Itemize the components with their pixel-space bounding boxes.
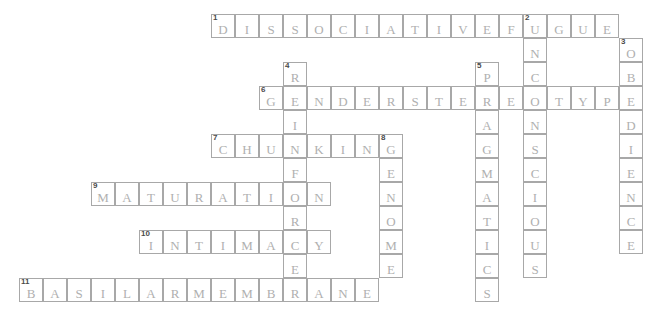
crossword-cell[interactable]: S (403, 86, 427, 110)
crossword-cell[interactable]: E (211, 278, 235, 302)
crossword-cell[interactable]: U (523, 230, 547, 254)
crossword-cell[interactable]: O (307, 14, 331, 38)
crossword-cell[interactable]: A (259, 230, 283, 254)
crossword-cell[interactable]: 4R (283, 62, 307, 86)
crossword-cell[interactable]: C (523, 158, 547, 182)
crossword-cell[interactable]: O (379, 206, 403, 230)
crossword-cell[interactable]: G (547, 14, 571, 38)
crossword-cell[interactable]: I (211, 230, 235, 254)
crossword-cell[interactable]: R (475, 86, 499, 110)
crossword-cell[interactable]: R (379, 86, 403, 110)
crossword-cell[interactable]: E (283, 86, 307, 110)
crossword-cell[interactable]: O (523, 206, 547, 230)
crossword-cell[interactable]: 1D (211, 14, 235, 38)
crossword-cell[interactable]: E (283, 254, 307, 278)
crossword-cell[interactable]: F (499, 14, 523, 38)
crossword-cell[interactable]: 8G (379, 134, 403, 158)
crossword-cell[interactable]: K (307, 134, 331, 158)
crossword-cell[interactable]: N (283, 134, 307, 158)
crossword-cell[interactable]: E (619, 86, 643, 110)
crossword-cell[interactable]: R (187, 182, 211, 206)
crossword-cell[interactable]: O (523, 86, 547, 110)
crossword-cell[interactable]: E (619, 230, 643, 254)
crossword-cell[interactable]: C (619, 206, 643, 230)
crossword-cell[interactable]: N (379, 182, 403, 206)
crossword-cell[interactable]: M (235, 278, 259, 302)
crossword-cell[interactable]: S (67, 278, 91, 302)
crossword-cell[interactable]: R (283, 206, 307, 230)
crossword-cell[interactable]: A (307, 278, 331, 302)
crossword-cell[interactable]: S (259, 14, 283, 38)
crossword-cell[interactable]: A (115, 182, 139, 206)
crossword-cell[interactable]: T (475, 206, 499, 230)
crossword-cell[interactable]: I (475, 230, 499, 254)
crossword-cell[interactable]: I (259, 182, 283, 206)
crossword-cell[interactable]: U (259, 134, 283, 158)
crossword-cell[interactable]: G (475, 134, 499, 158)
crossword-cell[interactable]: 3O (619, 38, 643, 62)
crossword-cell[interactable]: E (595, 14, 619, 38)
crossword-cell[interactable]: C (475, 254, 499, 278)
crossword-cell[interactable]: U (571, 14, 595, 38)
crossword-cell[interactable]: R (163, 278, 187, 302)
crossword-cell[interactable]: Y (571, 86, 595, 110)
crossword-cell[interactable]: A (211, 182, 235, 206)
crossword-cell[interactable]: B (259, 278, 283, 302)
crossword-cell[interactable]: F (283, 158, 307, 182)
crossword-cell[interactable]: M (187, 278, 211, 302)
crossword-cell[interactable]: A (475, 110, 499, 134)
crossword-cell[interactable]: H (235, 134, 259, 158)
crossword-cell[interactable]: C (523, 62, 547, 86)
crossword-cell[interactable]: E (379, 254, 403, 278)
crossword-cell[interactable]: A (139, 278, 163, 302)
crossword-cell[interactable]: E (619, 158, 643, 182)
crossword-cell[interactable]: I (523, 182, 547, 206)
crossword-cell[interactable]: A (475, 182, 499, 206)
crossword-cell[interactable]: N (331, 278, 355, 302)
crossword-cell[interactable]: D (619, 110, 643, 134)
crossword-cell[interactable]: 5P (475, 62, 499, 86)
crossword-cell[interactable]: I (331, 134, 355, 158)
crossword-cell[interactable]: E (355, 86, 379, 110)
crossword-cell[interactable]: N (307, 86, 331, 110)
crossword-cell[interactable]: M (235, 230, 259, 254)
crossword-cell[interactable]: P (595, 86, 619, 110)
crossword-cell[interactable]: M (475, 158, 499, 182)
crossword-cell[interactable]: R (283, 278, 307, 302)
crossword-cell[interactable]: V (451, 14, 475, 38)
crossword-cell[interactable]: Y (307, 230, 331, 254)
crossword-cell[interactable]: I (91, 278, 115, 302)
crossword-cell[interactable]: I (619, 134, 643, 158)
crossword-cell[interactable]: T (427, 86, 451, 110)
crossword-cell[interactable]: N (307, 182, 331, 206)
crossword-cell[interactable]: E (499, 86, 523, 110)
crossword-cell[interactable]: N (523, 38, 547, 62)
crossword-cell[interactable]: E (379, 158, 403, 182)
crossword-cell[interactable]: S (475, 278, 499, 302)
crossword-cell[interactable]: O (283, 182, 307, 206)
crossword-cell[interactable]: S (523, 254, 547, 278)
crossword-cell[interactable]: 6G (259, 86, 283, 110)
crossword-cell[interactable]: 9M (91, 182, 115, 206)
crossword-cell[interactable]: I (355, 14, 379, 38)
crossword-cell[interactable]: L (115, 278, 139, 302)
crossword-cell[interactable]: E (355, 278, 379, 302)
crossword-cell[interactable]: T (235, 182, 259, 206)
crossword-cell[interactable]: N (523, 110, 547, 134)
crossword-cell[interactable]: N (355, 134, 379, 158)
crossword-cell[interactable]: E (451, 86, 475, 110)
crossword-cell[interactable]: B (619, 62, 643, 86)
crossword-cell[interactable]: U (163, 182, 187, 206)
crossword-cell[interactable]: S (283, 14, 307, 38)
crossword-cell[interactable]: C (283, 230, 307, 254)
crossword-cell[interactable]: T (547, 86, 571, 110)
crossword-cell[interactable]: E (475, 14, 499, 38)
crossword-cell[interactable]: 7C (211, 134, 235, 158)
crossword-cell[interactable]: I (283, 110, 307, 134)
crossword-cell[interactable]: C (331, 14, 355, 38)
crossword-cell[interactable]: D (331, 86, 355, 110)
crossword-cell[interactable]: 2U (523, 14, 547, 38)
crossword-cell[interactable]: N (619, 182, 643, 206)
crossword-cell[interactable]: T (187, 230, 211, 254)
crossword-cell[interactable]: 10I (139, 230, 163, 254)
